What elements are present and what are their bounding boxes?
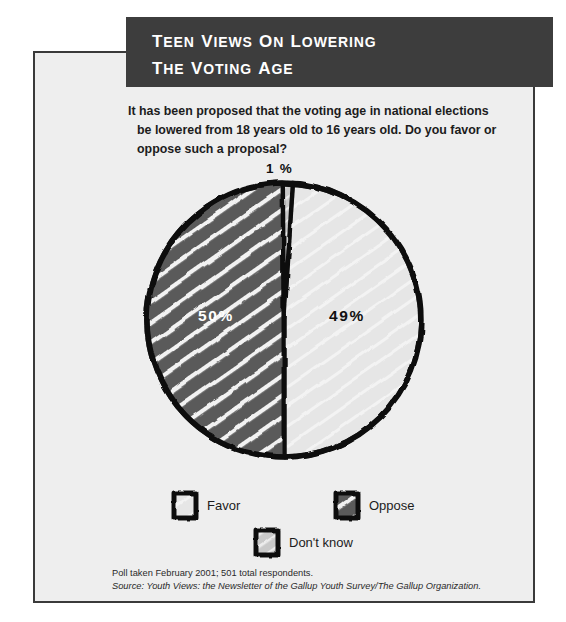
slice-label-favor: 49%: [329, 307, 365, 325]
legend-item-oppose[interactable]: Oppose: [332, 489, 415, 522]
survey-question: It has been proposed that the voting age…: [128, 102, 520, 159]
footnote-source: Source: Youth Views: the Newsletter of t…: [112, 580, 532, 593]
slice-label-dontknow: 1 %: [266, 161, 293, 176]
pie-chart: [35, 152, 537, 472]
slice-label-oppose: 50%: [198, 307, 234, 325]
legend-label-oppose: Oppose: [369, 498, 415, 513]
footnote: Poll taken February 2001; 501 total resp…: [112, 567, 532, 592]
legend-swatch-favor: [170, 489, 200, 522]
legend-swatch-oppose: [332, 489, 362, 522]
question-line-1: It has been proposed that the voting age…: [128, 102, 520, 121]
pie-chart-svg: [35, 152, 537, 472]
legend-label-dontknow: Don't know: [289, 535, 353, 550]
footnote-poll-info: Poll taken February 2001; 501 total resp…: [112, 567, 532, 580]
legend-swatch-dontknow: [252, 526, 282, 559]
title-line-1: TEEN VIEWS ON LOWERING: [152, 26, 553, 53]
chart-panel: It has been proposed that the voting age…: [33, 51, 535, 603]
legend-label-favor: Favor: [207, 498, 240, 513]
title-banner: TEEN VIEWS ON LOWERING THE VOTING AGE: [126, 17, 553, 87]
legend-item-dontknow[interactable]: Don't know: [252, 526, 353, 559]
legend-item-favor[interactable]: Favor: [170, 489, 240, 522]
title-line-2: THE VOTING AGE: [152, 53, 553, 80]
question-line-2: be lowered from 18 years old to 16 years…: [128, 121, 520, 140]
